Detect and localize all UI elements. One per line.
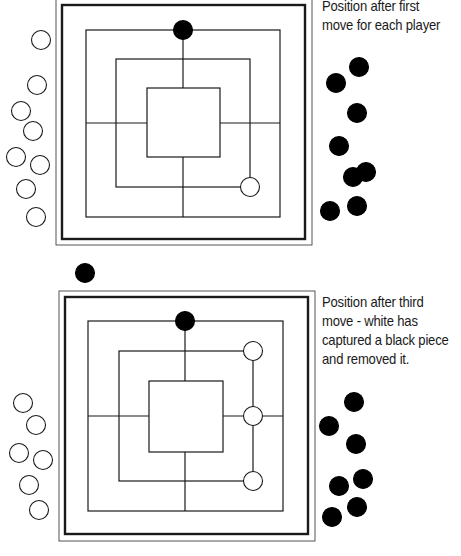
caption-first-move: Position after first move for each playe…	[322, 0, 440, 35]
inner-square	[147, 88, 220, 157]
white-reserve-piece	[17, 180, 36, 199]
black-reserve-piece	[330, 137, 349, 156]
white-reserve-piece	[24, 122, 43, 141]
caption-line: Position after third	[322, 293, 449, 312]
caption-line: move for each player	[322, 16, 440, 35]
black-reserve-piece	[347, 435, 366, 454]
white-reserve-piece	[27, 416, 46, 435]
caption-line: move - white has	[322, 312, 449, 331]
white-piece-on-board	[244, 407, 263, 426]
white-reserve-piece	[31, 156, 50, 175]
caption-line: Position after first	[322, 0, 440, 16]
white-reserve-piece	[10, 444, 29, 463]
captured-black-piece	[76, 264, 95, 283]
white-piece-on-board	[241, 178, 260, 197]
black-reserve-piece	[348, 104, 367, 123]
black-reserve-piece	[345, 393, 364, 412]
caption-third-move: Position after third move - white has ca…	[322, 293, 449, 369]
white-reserve-piece	[32, 31, 51, 50]
white-reserve-piece	[7, 148, 26, 167]
caption-line: and removed it.	[322, 350, 449, 369]
caption-line: captured a black piece	[322, 331, 449, 350]
black-reserve-piece	[348, 498, 367, 517]
diagram-third-move	[10, 264, 373, 542]
black-reserve-piece	[354, 470, 373, 489]
black-reserve-piece	[321, 202, 340, 221]
white-reserve-piece	[30, 501, 49, 520]
white-piece-on-board	[244, 472, 263, 491]
black-reserve-piece	[327, 74, 346, 93]
white-reserve-piece	[20, 476, 39, 495]
nine-mens-morris-diagram	[0, 0, 461, 556]
white-reserve-piece	[27, 208, 46, 227]
black-reserve-piece	[323, 508, 342, 527]
white-piece-on-board	[244, 342, 263, 361]
black-reserve-piece	[320, 417, 339, 436]
black-reserve-piece	[350, 58, 369, 77]
white-reserve-piece	[28, 76, 47, 95]
black-reserve-piece	[330, 477, 349, 496]
black-piece-on-board	[174, 21, 193, 40]
black-piece-on-board	[176, 312, 195, 331]
diagram-first-move	[7, 0, 376, 245]
black-reserve-piece	[357, 163, 376, 182]
white-reserve-piece	[14, 394, 33, 413]
white-reserve-piece	[12, 102, 31, 121]
inner-square	[149, 381, 223, 452]
white-reserve-piece	[34, 451, 53, 470]
black-reserve-piece	[348, 197, 367, 216]
